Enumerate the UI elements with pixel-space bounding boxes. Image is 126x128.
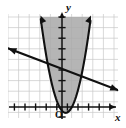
coordinate-plane-svg: y x O (0, 0, 126, 128)
line-left-arrowhead (8, 48, 17, 54)
y-axis-label: y (64, 1, 71, 13)
x-axis-arrowhead (110, 104, 116, 109)
x-axis-label: x (114, 111, 121, 123)
y-axis-arrowhead (59, 12, 64, 18)
graph-figure: y x O (0, 0, 126, 128)
origin-label: O (55, 109, 63, 120)
